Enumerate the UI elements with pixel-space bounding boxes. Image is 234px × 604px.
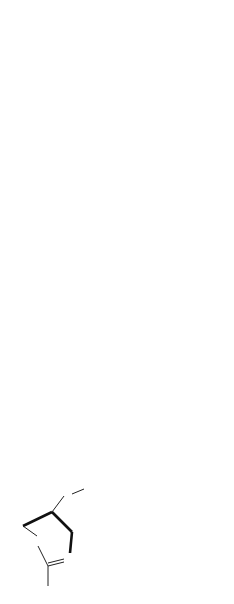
rotated-document-page [0, 0, 234, 604]
oxazoline-ring-bonds-1 [0, 464, 90, 604]
